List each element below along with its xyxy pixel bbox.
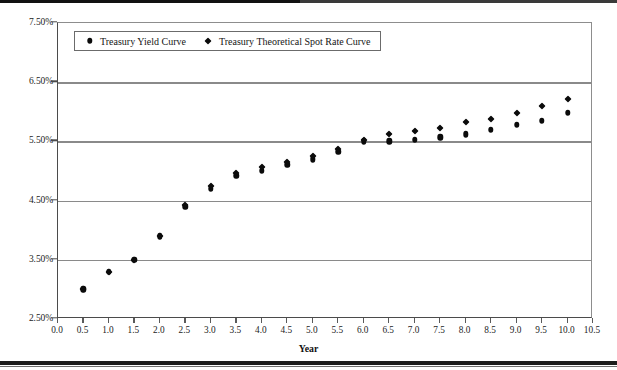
- data-point: [386, 131, 393, 138]
- data-point: [233, 169, 240, 176]
- gridline: [58, 82, 591, 83]
- x-axis-label: 3.0: [204, 325, 216, 335]
- bottom-rule: [0, 361, 617, 365]
- x-axis-tick: [414, 318, 415, 323]
- x-axis-label: 5.5: [331, 325, 343, 335]
- x-axis-tick: [592, 318, 593, 323]
- x-axis-label: 7.0: [408, 325, 420, 335]
- data-point: [386, 138, 391, 144]
- y-axis-label: 3.50%: [29, 254, 53, 264]
- x-axis-label: 10.0: [558, 325, 574, 335]
- x-axis-label: 7.5: [433, 325, 445, 335]
- x-axis-tick: [567, 318, 568, 323]
- x-axis-label: 0.5: [77, 325, 89, 335]
- gridline: [58, 201, 591, 202]
- x-axis-label: 1.5: [128, 325, 140, 335]
- circle-marker-icon: [84, 36, 95, 47]
- x-axis-tick: [159, 318, 160, 323]
- x-axis-tick: [82, 318, 83, 323]
- legend-label-yield-curve: Treasury Yield Curve: [100, 36, 186, 47]
- data-point: [488, 116, 495, 123]
- x-axis-tick: [286, 318, 287, 323]
- data-point: [156, 233, 163, 240]
- x-axis-tick: [312, 318, 313, 323]
- diamond-marker-icon: [203, 36, 214, 47]
- data-point: [514, 122, 519, 128]
- y-axis-label: 2.50%: [29, 313, 53, 323]
- x-axis-label: 3.5: [230, 325, 242, 335]
- x-axis-label: 4.5: [280, 325, 292, 335]
- x-axis-tick: [337, 318, 338, 323]
- data-point: [462, 119, 469, 126]
- data-point: [284, 158, 291, 165]
- x-axis-tick: [235, 318, 236, 323]
- data-point: [437, 124, 444, 131]
- data-point: [437, 134, 442, 140]
- data-point: [411, 127, 418, 134]
- x-axis-tick: [516, 318, 517, 323]
- legend-entry-spot-rate-curve: Treasury Theoretical Spot Rate Curve: [203, 36, 371, 47]
- x-axis-label: 9.5: [535, 325, 547, 335]
- data-point: [513, 109, 520, 116]
- x-axis-label: 6.5: [382, 325, 394, 335]
- x-axis-label: 4.0: [255, 325, 267, 335]
- x-axis-tick: [388, 318, 389, 323]
- data-point: [565, 110, 570, 116]
- data-point: [335, 145, 342, 152]
- y-axis-label: 6.50%: [29, 76, 53, 86]
- x-axis-label: 1.0: [102, 325, 114, 335]
- x-axis-tick: [439, 318, 440, 323]
- x-axis-label: 5.0: [306, 325, 318, 335]
- x-axis-label: 0.0: [51, 325, 63, 335]
- gridline: [58, 260, 591, 261]
- legend-entry-yield-curve: Treasury Yield Curve: [84, 36, 186, 47]
- x-axis-tick: [490, 318, 491, 323]
- data-point: [488, 126, 493, 132]
- figure-container: 2.50%3.50%4.50%5.50%6.50%7.50% Treasury …: [0, 0, 617, 370]
- x-axis-label: 2.0: [153, 325, 165, 335]
- x-axis-tick: [261, 318, 262, 323]
- legend-label-spot-rate-curve: Treasury Theoretical Spot Rate Curve: [219, 36, 371, 47]
- data-point: [131, 256, 138, 263]
- data-point: [564, 95, 571, 102]
- y-axis-label: 7.50%: [29, 17, 53, 27]
- x-axis-title: Year: [0, 343, 617, 354]
- y-axis-label-group: 2.50%3.50%4.50%5.50%6.50%7.50%: [0, 0, 53, 370]
- x-axis-label: 8.5: [484, 325, 496, 335]
- x-axis-label: 2.5: [179, 325, 191, 335]
- y-axis-label: 4.50%: [29, 195, 53, 205]
- plot-area: [57, 22, 592, 318]
- x-axis-tick: [465, 318, 466, 323]
- x-axis-tick: [133, 318, 134, 323]
- data-point: [105, 268, 112, 275]
- gridline: [58, 141, 591, 142]
- x-axis-label: 6.0: [357, 325, 369, 335]
- x-axis-tick: [363, 318, 364, 323]
- data-point: [463, 131, 468, 137]
- bottom-rule-thin: [0, 366, 617, 367]
- chart-legend: Treasury Yield Curve Treasury Theoretica…: [74, 31, 381, 51]
- x-axis-tick: [210, 318, 211, 323]
- x-axis-tick: [57, 318, 58, 323]
- x-axis-tick: [108, 318, 109, 323]
- x-axis-tick: [184, 318, 185, 323]
- data-point: [539, 102, 546, 109]
- x-axis-label: 10.5: [584, 325, 600, 335]
- x-axis-label: 9.0: [510, 325, 522, 335]
- x-axis-tick: [541, 318, 542, 323]
- x-axis-label: 8.0: [459, 325, 471, 335]
- y-axis-label: 5.50%: [29, 135, 53, 145]
- data-point: [539, 117, 544, 123]
